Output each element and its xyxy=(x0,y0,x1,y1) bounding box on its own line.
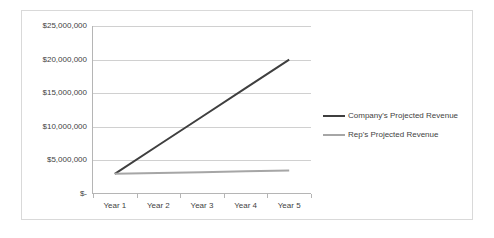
series-line xyxy=(115,60,289,174)
value-axis-label: $- xyxy=(0,190,87,198)
legend-label: Company's Projected Revenue xyxy=(348,111,458,120)
category-axis-label: Year 1 xyxy=(93,201,137,210)
chart-container: $25,000,000$20,000,000$15,000,000$10,000… xyxy=(21,10,473,220)
category-axis-tick xyxy=(311,194,312,198)
plot-area: $25,000,000$20,000,000$15,000,000$10,000… xyxy=(93,26,311,194)
legend-entry[interactable]: Company's Projected Revenue xyxy=(323,106,458,125)
chart-legend: Company's Projected RevenueRep's Project… xyxy=(323,106,458,144)
category-axis-label: Year 4 xyxy=(224,201,268,210)
category-axis-label: Year 5 xyxy=(267,201,311,210)
value-axis-label: $10,000,000 xyxy=(0,123,87,131)
value-axis-labels: $25,000,000$20,000,000$15,000,000$10,000… xyxy=(0,26,87,194)
series-line xyxy=(115,170,289,173)
category-axis-labels: Year 1Year 2Year 3Year 4Year 5 xyxy=(93,194,311,214)
category-axis-label: Year 2 xyxy=(137,201,181,210)
category-axis-label: Year 3 xyxy=(180,201,224,210)
legend-swatch-icon xyxy=(323,134,345,136)
legend-entry[interactable]: Rep's Projected Revenue xyxy=(323,125,458,144)
series-lines xyxy=(93,26,311,194)
value-axis-label: $20,000,000 xyxy=(0,56,87,64)
value-axis-label: $25,000,000 xyxy=(0,22,87,30)
legend-swatch-icon xyxy=(323,115,345,117)
value-axis-label: $5,000,000 xyxy=(0,156,87,164)
value-axis-label: $15,000,000 xyxy=(0,89,87,97)
legend-label: Rep's Projected Revenue xyxy=(348,130,438,139)
